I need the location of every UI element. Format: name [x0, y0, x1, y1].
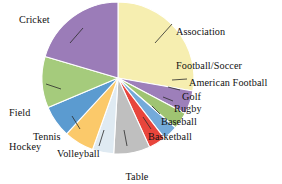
slice-label-rugby: Rugby [174, 103, 202, 114]
slice-label-table-tennis: Table Tennis [115, 148, 159, 184]
slice-label-soccer-line2: Football/Soccer [176, 60, 242, 71]
slice-label-tennis: Tennis [33, 131, 61, 142]
slice-label-cricket: Cricket [19, 14, 50, 25]
slice-label-baseball: Baseball [161, 116, 197, 127]
slice-label-field-hockey-line1: Field [9, 107, 41, 118]
slice-label-basketball: Basketball [148, 131, 192, 142]
slice-label-field-hockey: Field Hockey [9, 84, 41, 175]
slice-label-american-football: American Football [189, 77, 267, 88]
slice-label-volleyball: Volleyball [57, 148, 100, 159]
slice-label-soccer-line1: Association [176, 26, 242, 37]
slice-label-golf: Golf [182, 91, 201, 102]
slice-label-table-tennis-line1: Table [115, 171, 159, 182]
pie-chart-figure: Association Football/Soccer Cricket Fiel… [0, 0, 282, 184]
slice-label-field-hockey-line2: Hockey [9, 141, 41, 152]
